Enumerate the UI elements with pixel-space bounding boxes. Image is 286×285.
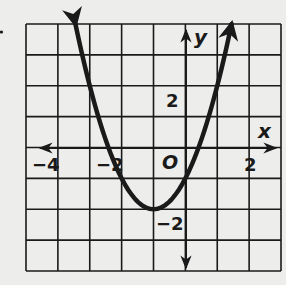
origin-label: O [162,151,178,173]
margin-dot [0,30,3,33]
y-axis-label: y [194,25,208,49]
graph-figure: y x O −4 −2 2 2 −2 [0,0,286,285]
x-tick-label-neg4: −4 [32,154,60,175]
y-tick-label-neg2: −2 [156,213,184,234]
x-tick-label-2: 2 [244,154,257,175]
y-tick-label-2: 2 [166,90,179,111]
x-tick-label-neg2: −2 [96,154,124,175]
coordinate-plane: y x O −4 −2 2 2 −2 [0,0,286,285]
x-axis-label: x [257,119,272,143]
